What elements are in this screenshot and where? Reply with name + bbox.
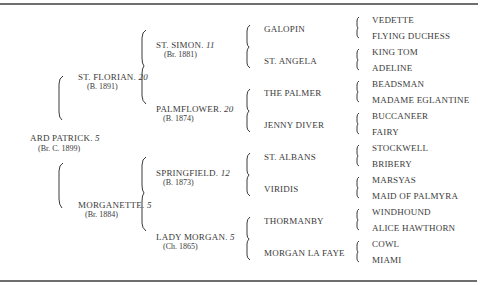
great-great-grandparent: FLYING DUCHESS [372, 31, 450, 41]
grandparent-name: LADY MORGAN [156, 232, 225, 242]
great-grandparent: JENNY DIVER [264, 120, 324, 130]
great-great-grandparent: MIAMI [372, 255, 402, 265]
horse-info: (Br. C. 1899) [38, 144, 80, 153]
sire-info: (B. 1891) [87, 82, 118, 91]
great-grandparent: ST. ALBANS [264, 152, 316, 162]
great-great-grandparent: VEDETTE [372, 15, 414, 25]
sire-family-number: 20 [138, 72, 147, 82]
sire: ST. FLORIAN. 20 [78, 72, 148, 82]
great-great-grandparent: MADAME EGLANTINE [372, 95, 469, 105]
horse-name-text: ARD PATRICK [30, 133, 90, 143]
great-great-grandparent: BEADSMAN [372, 79, 424, 89]
grandparent-family-number: 11 [206, 40, 215, 50]
great-grandparent: THORMANBY [264, 216, 324, 226]
grandparent: LADY MORGAN. 5 [156, 232, 235, 242]
grandparent-info: (Ch. 1865) [163, 242, 198, 251]
great-great-grandparent: BRIBERY [372, 159, 412, 169]
dam-family-number: 5 [147, 200, 152, 210]
grandparent-family-number: 12 [221, 168, 230, 178]
great-great-grandparent: ALICE HAWTHORN [372, 223, 455, 233]
great-grandparent: MORGAN LA FAYE [264, 248, 345, 258]
dam-name: MORGANETTE [78, 200, 142, 210]
grandparent-family-number: 5 [230, 232, 235, 242]
great-great-grandparent: BUCCANEER [372, 111, 428, 121]
great-grandparent: ST. ANGELA [264, 56, 317, 66]
sire-name: ST. FLORIAN [78, 72, 134, 82]
grandparent-info: (B. 1873) [163, 178, 194, 187]
great-great-grandparent: MAID OF PALMYRA [372, 191, 458, 201]
great-great-grandparent: WINDHOUND [372, 207, 431, 217]
grandparent-info: (Br. 1881) [164, 50, 197, 59]
horse-name: ARD PATRICK. 5 [30, 133, 100, 143]
grandparent-name: PALMFLOWER [156, 104, 219, 114]
great-great-grandparent: ADELINE [372, 63, 412, 73]
great-great-grandparent: COWL [372, 239, 399, 249]
horse-family-number: 5 [95, 133, 100, 143]
great-great-grandparent: STOCKWELL [372, 143, 428, 153]
grandparent-name: SPRINGFIELD [156, 168, 216, 178]
great-great-grandparent: FAIRY [372, 127, 399, 137]
great-grandparent: THE PALMER [264, 88, 321, 98]
grandparent-info: (B. 1874) [163, 114, 194, 123]
dam: MORGANETTE. 5 [78, 200, 152, 210]
grandparent-name: ST. SIMON [156, 40, 201, 50]
grandparent-family-number: 20 [224, 104, 233, 114]
great-great-grandparent: KING TOM [372, 47, 418, 57]
great-grandparent: VIRIDIS [264, 184, 298, 194]
great-great-grandparent: MARSYAS [372, 175, 416, 185]
grandparent: ST. SIMON. 11 [156, 40, 215, 50]
grandparent: PALMFLOWER. 20 [156, 104, 234, 114]
great-grandparent: GALOPIN [264, 24, 305, 34]
grandparent: SPRINGFIELD. 12 [156, 168, 230, 178]
dam-info: (Br. 1884) [85, 210, 118, 219]
